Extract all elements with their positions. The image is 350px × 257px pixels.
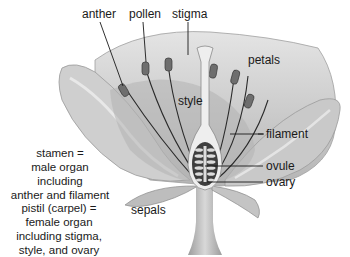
label-ovary: ovary: [266, 176, 295, 189]
stamen-note-line: male organ including: [8, 160, 112, 188]
stamen-note: stamen = male organ including anther and…: [8, 146, 112, 202]
label-filament: filament: [266, 128, 308, 141]
stamen-note-line: anther and filament: [8, 188, 112, 202]
sepal-right: [212, 186, 259, 218]
label-ovule: ovule: [266, 160, 295, 173]
pistil-note: pistil (carpel) = female organ including…: [10, 201, 108, 257]
label-style: style: [178, 95, 203, 108]
pistil-note-line: including stigma,: [10, 229, 108, 243]
pistil-note-line: pistil (carpel) =: [10, 201, 108, 215]
stamen-note-line: stamen =: [8, 146, 112, 160]
label-petals: petals: [248, 54, 280, 67]
label-stigma: stigma: [172, 8, 207, 21]
label-sepals: sepals: [131, 204, 166, 217]
label-anther: anther: [82, 8, 116, 21]
pistil-note-line: style, and ovary: [10, 243, 108, 257]
pistil-note-line: female organ: [10, 215, 108, 229]
stem: [188, 185, 222, 255]
label-pollen: pollen: [129, 8, 161, 21]
